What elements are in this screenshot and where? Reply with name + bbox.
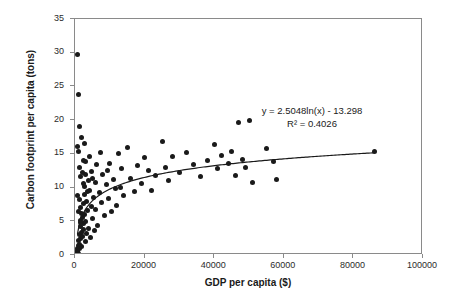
scatter-point [372, 149, 377, 154]
x-tick-mark [144, 254, 145, 258]
scatter-point [240, 157, 245, 162]
x-tick-label: 0 [44, 261, 104, 270]
scatter-point [77, 165, 82, 170]
trendline [75, 19, 421, 253]
y-tick-label: 10 [36, 182, 64, 191]
y-tick-label: 15 [36, 148, 64, 157]
scatter-point [106, 196, 111, 201]
x-axis-title: GDP per capita ($) [74, 277, 422, 288]
scatter-point [84, 199, 89, 204]
y-tick-label: 20 [36, 115, 64, 124]
x-tick-label: 100000 [392, 261, 452, 270]
scatter-point [76, 149, 81, 154]
scatter-point [226, 161, 231, 166]
x-tick-label: 60000 [253, 261, 313, 270]
scatter-point [85, 208, 90, 213]
y-axis-title: Carbon footprint per capita (tons) [25, 30, 36, 230]
scatter-point [247, 118, 252, 123]
x-tick-label: 80000 [322, 261, 382, 270]
scatter-point [250, 180, 255, 185]
scatter-point [160, 139, 165, 144]
scatter-point [184, 150, 189, 155]
data-points-layer [75, 19, 421, 253]
y-tick-label: 35 [36, 14, 64, 23]
y-tick-mark [70, 187, 74, 188]
scatter-point [191, 162, 196, 167]
x-tick-mark [213, 254, 214, 258]
scatter-point [163, 165, 168, 170]
scatter-point [264, 146, 269, 151]
scatter-point [75, 52, 80, 57]
scatter-point [132, 189, 137, 194]
regression-annotation: y = 2.5048ln(x) - 13.298 R² = 0.4026 [252, 104, 372, 130]
scatter-point [83, 219, 88, 224]
scatter-point [146, 168, 151, 173]
scatter-point [92, 228, 97, 233]
scatter-point [76, 251, 81, 253]
y-tick-label: 0 [36, 250, 64, 259]
scatter-point [125, 145, 130, 150]
x-tick-mark [74, 254, 75, 258]
y-tick-mark [70, 220, 74, 221]
scatter-point [90, 176, 95, 181]
y-tick-mark [70, 18, 74, 19]
y-tick-label: 30 [36, 47, 64, 56]
y-tick-mark [70, 52, 74, 53]
scatter-point [88, 235, 93, 240]
x-tick-mark [283, 254, 284, 258]
x-tick-mark [422, 254, 423, 258]
scatter-point [76, 92, 81, 97]
y-tick-label: 25 [36, 81, 64, 90]
scatter-point [90, 216, 95, 221]
x-tick-label: 40000 [183, 261, 243, 270]
x-tick-mark [352, 254, 353, 258]
scatter-point [118, 185, 123, 190]
scatter-point [219, 153, 224, 158]
scatter-point [149, 188, 154, 193]
scatter-point [243, 165, 248, 170]
y-tick-mark [70, 119, 74, 120]
scatter-point [83, 172, 88, 177]
scatter-point [100, 172, 105, 177]
scatter-point [87, 154, 92, 159]
r-squared-value: R² = 0.4026 [252, 117, 372, 130]
plot-area [74, 18, 422, 254]
scatter-point [99, 200, 104, 205]
scatter-point [82, 141, 87, 146]
scatter-point [170, 154, 175, 159]
scatter-point [212, 142, 217, 147]
scatter-point [229, 149, 234, 154]
scatter-point [81, 181, 86, 186]
scatter-point [105, 168, 110, 173]
scatter-point [91, 195, 96, 200]
y-tick-label: 5 [36, 216, 64, 225]
x-tick-label: 20000 [114, 261, 174, 270]
scatter-point [153, 173, 158, 178]
scatter-point [114, 203, 119, 208]
scatter-point [83, 239, 88, 244]
scatter-point [79, 135, 84, 140]
scatter-point [205, 158, 210, 163]
scatter-point [111, 177, 116, 182]
y-tick-mark [70, 85, 74, 86]
scatter-point [95, 223, 100, 228]
y-tick-mark [70, 153, 74, 154]
scatter-point [85, 189, 90, 194]
scatter-point [233, 173, 238, 178]
carbon-vs-gdp-scatter-chart: Carbon footprint per capita (tons) 05101… [0, 0, 459, 304]
scatter-point [128, 176, 133, 181]
regression-equation: y = 2.5048ln(x) - 13.298 [252, 104, 372, 117]
scatter-point [98, 150, 103, 155]
scatter-point [139, 181, 144, 186]
